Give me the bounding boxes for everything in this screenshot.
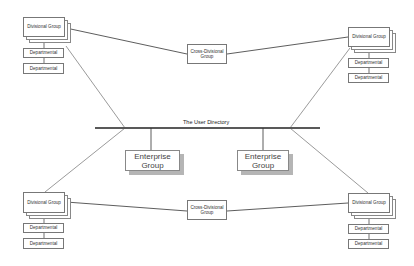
cross-divisional-group-top[interactable]: Cross-DivisionalGroup bbox=[187, 44, 227, 64]
departmental-label: Departmental bbox=[30, 241, 58, 247]
divisional-group-top-left[interactable]: Divisional Group bbox=[23, 17, 65, 37]
departmental-box[interactable]: Departmental bbox=[23, 238, 64, 249]
departmental-box[interactable]: Departmental bbox=[23, 63, 64, 74]
departmental-label: Departmental bbox=[30, 50, 58, 56]
cross-divisional-group-bottom[interactable]: Cross-DivisionalGroup bbox=[187, 200, 227, 220]
link-top-left bbox=[66, 46, 125, 128]
enterprise-group-right[interactable]: EnterpriseGroup bbox=[237, 150, 289, 171]
departmental-label: Departmental bbox=[355, 241, 383, 247]
link-top-right bbox=[290, 48, 350, 128]
departmental-box[interactable]: Departmental bbox=[348, 224, 389, 234]
link-bottom-left bbox=[45, 128, 125, 192]
link-bottom-right bbox=[290, 128, 368, 193]
departmental-box[interactable]: Departmental bbox=[348, 239, 389, 249]
departmental-label: Departmental bbox=[355, 75, 383, 81]
enterprise-label: Enterprise bbox=[134, 152, 170, 161]
user-directory-label: The User Directory bbox=[183, 119, 229, 125]
divisional-group-bottom-left[interactable]: Divisional Group bbox=[23, 192, 65, 213]
divisional-label: Divisional Group bbox=[27, 24, 61, 30]
divisional-group-top-right[interactable]: Divisional Group bbox=[348, 27, 390, 47]
departmental-label: Departmental bbox=[355, 226, 383, 232]
enterprise-group-left[interactable]: EnterpriseGroup bbox=[125, 150, 180, 171]
departmental-box[interactable]: Departmental bbox=[348, 73, 389, 83]
cross-divisional-label: Group bbox=[190, 54, 223, 60]
departmental-box[interactable]: Departmental bbox=[23, 223, 64, 233]
departmental-box[interactable]: Departmental bbox=[23, 48, 64, 58]
divisional-group-bottom-right[interactable]: Divisional Group bbox=[348, 193, 390, 213]
departmental-label: Departmental bbox=[355, 60, 383, 66]
divisional-label: Divisional Group bbox=[352, 34, 386, 40]
divisional-label: Divisional Group bbox=[352, 200, 386, 206]
cross-divisional-label: Group bbox=[190, 210, 223, 216]
departmental-label: Departmental bbox=[30, 66, 58, 72]
enterprise-label: Group bbox=[134, 161, 170, 170]
departmental-box[interactable]: Departmental bbox=[348, 58, 389, 68]
departmental-label: Departmental bbox=[30, 225, 58, 231]
enterprise-label: Group bbox=[245, 161, 281, 170]
divisional-label: Divisional Group bbox=[27, 200, 61, 206]
enterprise-label: Enterprise bbox=[245, 152, 281, 161]
